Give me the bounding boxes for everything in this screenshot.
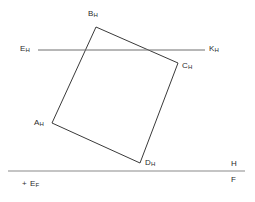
quadrilateral-abcd	[52, 27, 178, 163]
vertex-label-bh: BH	[88, 10, 98, 18]
vertex-label-dh-sub: H	[151, 161, 155, 167]
vertex-label-ch: CH	[182, 62, 192, 70]
diagram-canvas: BH EH KH CH AH DH H F +EF	[0, 0, 255, 202]
vertex-label-ah-sub: H	[40, 121, 44, 127]
vertex-label-dh: DH	[145, 159, 155, 167]
line-label-eh: EH	[20, 45, 30, 53]
line-label-kh: KH	[209, 45, 219, 53]
vertex-label-ah: AH	[34, 119, 44, 127]
point-label-ef-sub: F	[35, 182, 39, 188]
diagram-svg	[0, 0, 255, 202]
ground-line-label-h: H	[231, 160, 237, 168]
line-label-eh-sub: H	[26, 47, 30, 53]
vertex-label-ch-sub: H	[188, 64, 192, 70]
point-label-ef: +EF	[22, 180, 39, 188]
vertex-label-bh-sub: H	[94, 12, 98, 18]
ground-line-label-f: F	[231, 176, 236, 184]
plus-marker-icon: +	[22, 179, 27, 188]
line-label-kh-sub: H	[215, 47, 219, 53]
